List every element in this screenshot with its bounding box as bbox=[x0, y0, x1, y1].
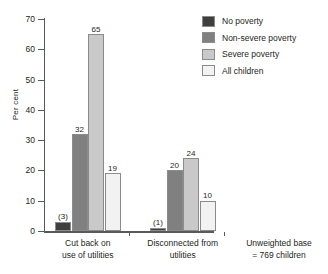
bar-value-label: 20 bbox=[170, 161, 179, 170]
y-axis-title: Per cent bbox=[11, 70, 20, 140]
chart-legend: No povertyNon-severe povertySevere pover… bbox=[202, 13, 296, 79]
legend-item: All children bbox=[202, 63, 296, 80]
legend-item: Non-severe poverty bbox=[202, 30, 296, 47]
y-axis-tick: 60 bbox=[38, 49, 44, 50]
bar-value-label: 65 bbox=[92, 25, 101, 34]
legend-swatch-icon bbox=[202, 32, 215, 43]
legend-label: Severe poverty bbox=[222, 49, 279, 59]
y-axis-tick: 40 bbox=[38, 110, 44, 111]
unweighted-base-note: Unweighted base = 769 children bbox=[232, 238, 326, 261]
y-axis-tick-label: 60 bbox=[26, 44, 38, 54]
legend-item: Severe poverty bbox=[202, 46, 296, 63]
legend-swatch-icon bbox=[202, 65, 215, 76]
y-axis-tick-label: 40 bbox=[26, 105, 38, 115]
x-axis-category-label-line: Disconnected from bbox=[131, 238, 235, 250]
bar-value-label: 10 bbox=[203, 191, 212, 200]
legend-swatch-icon bbox=[202, 49, 215, 60]
y-axis-tick: 50 bbox=[38, 80, 44, 81]
y-axis-tick-label: 20 bbox=[26, 165, 38, 175]
legend-label: No poverty bbox=[222, 16, 263, 26]
y-axis-tick-label: 30 bbox=[26, 135, 38, 145]
legend-label: All children bbox=[222, 66, 264, 76]
x-axis-category-label-line: utilities bbox=[131, 250, 235, 262]
y-axis-tick-label: 50 bbox=[26, 75, 38, 85]
y-axis-tick-label: 70 bbox=[26, 14, 38, 24]
bar-value-label: 32 bbox=[75, 125, 84, 134]
x-axis-category-label-line: use of utilities bbox=[36, 250, 140, 262]
plot-area: (3)326519(1)202410 bbox=[45, 19, 214, 231]
y-axis-tick-label: 0 bbox=[30, 226, 38, 236]
y-axis-tick: 30 bbox=[38, 140, 44, 141]
legend-item: No poverty bbox=[202, 13, 296, 30]
x-axis-category-label-line: Cut back on bbox=[36, 238, 140, 250]
y-axis-tick: 10 bbox=[38, 201, 44, 202]
legend-label: Non-severe poverty bbox=[222, 33, 296, 43]
bar-value-label: (3) bbox=[58, 212, 68, 221]
unweighted-base-line1: Unweighted base bbox=[232, 238, 326, 250]
x-axis-category-label: Disconnected fromutilities bbox=[131, 238, 235, 261]
bar-value-label: (1) bbox=[153, 218, 163, 227]
x-axis-category-label: Cut back onuse of utilities bbox=[36, 238, 140, 261]
bar: 20 bbox=[167, 170, 183, 231]
bar-chart: Per cent 010203040506070 (3)326519(1)202… bbox=[0, 0, 328, 274]
bar-value-label: 19 bbox=[108, 164, 117, 173]
bar: 24 bbox=[183, 158, 199, 231]
bar: 10 bbox=[200, 201, 216, 231]
y-axis-tick-label: 10 bbox=[26, 196, 38, 206]
bar: 32 bbox=[72, 134, 88, 231]
bar: (1) bbox=[150, 228, 166, 231]
legend-swatch-icon bbox=[202, 16, 215, 27]
unweighted-base-line2: = 769 children bbox=[232, 250, 326, 262]
bar: (3) bbox=[55, 222, 71, 231]
y-axis-tick: 0 bbox=[38, 231, 44, 232]
bar: 19 bbox=[105, 173, 121, 231]
x-axis-tick bbox=[129, 232, 130, 236]
bar: 65 bbox=[88, 34, 104, 231]
y-axis-tick: 20 bbox=[38, 170, 44, 171]
bar-value-label: 24 bbox=[187, 149, 196, 158]
y-axis-tick: 70 bbox=[38, 19, 44, 20]
x-axis-tick bbox=[224, 232, 225, 236]
